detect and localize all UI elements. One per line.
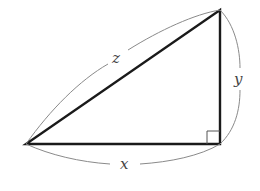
horizontal-leg-brace [140, 144, 220, 164]
label-z: z [111, 49, 120, 67]
vertical-leg-brace [220, 10, 240, 68]
diagram-svg: z y x [0, 0, 260, 191]
hypotenuse-brace [26, 64, 108, 144]
label-y: y [233, 70, 243, 88]
hypotenuse-brace [128, 10, 220, 50]
horizontal-leg-brace [26, 144, 110, 164]
triangle [26, 10, 220, 144]
vertical-leg-brace [220, 90, 240, 144]
right-angle-marker [207, 131, 220, 144]
right-triangle-diagram: z y x [0, 0, 260, 191]
label-x: x [120, 155, 129, 173]
